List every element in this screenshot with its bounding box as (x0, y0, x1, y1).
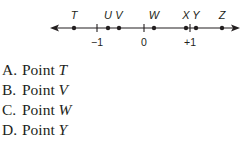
answer-choices: A.Point T B.Point V C.Point W D.Point Y (2, 60, 72, 140)
choice-a[interactable]: A.Point T (2, 60, 72, 80)
choice-variable: V (59, 81, 68, 98)
choice-c[interactable]: C.Point W (2, 100, 72, 120)
choice-text: Point (22, 121, 59, 138)
point-dot (184, 26, 188, 30)
choice-d[interactable]: D.Point Y (2, 120, 72, 140)
point-dot (194, 26, 198, 30)
point-dot (152, 26, 156, 30)
point-label: T (71, 9, 79, 21)
point-dot (72, 26, 76, 30)
choice-variable: T (59, 61, 68, 78)
point-label: U (104, 9, 112, 21)
choice-b[interactable]: B.Point V (2, 80, 72, 100)
tick-label: 0 (141, 36, 147, 48)
choice-letter: B. (2, 80, 22, 100)
tick-label: +1 (184, 36, 196, 48)
choice-letter: C. (2, 100, 22, 120)
point-dot (106, 26, 110, 30)
point-label: Y (192, 9, 200, 21)
point-label: V (115, 9, 124, 21)
point-dot (117, 26, 121, 30)
point-label: Z (218, 9, 227, 21)
choice-letter: A. (2, 60, 22, 80)
point-dot (220, 26, 224, 30)
choice-variable: Y (59, 121, 68, 138)
point-label: W (149, 9, 161, 21)
number-line: −10+1TUVWXYZ (0, 0, 250, 50)
point-label: X (181, 9, 190, 21)
tick-label: −1 (91, 36, 103, 48)
choice-variable: W (59, 101, 72, 118)
choice-text: Point (22, 61, 59, 78)
choice-text: Point (22, 81, 59, 98)
choice-text: Point (22, 101, 59, 118)
choice-letter: D. (2, 120, 22, 140)
